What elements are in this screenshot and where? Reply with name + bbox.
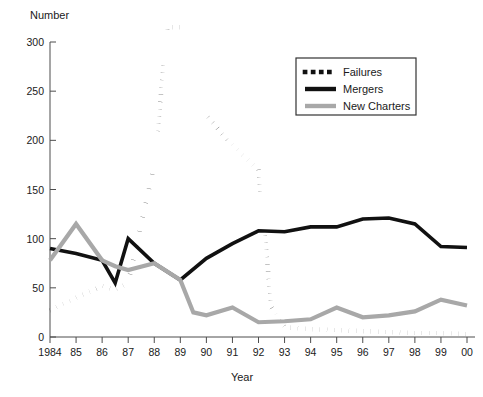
x-tick-label: 87 — [122, 346, 134, 358]
x-tick-label: 94 — [305, 346, 317, 358]
legend-label: New Charters — [343, 100, 411, 112]
x-tick-label: 92 — [253, 346, 265, 358]
y-tick-label: 250 — [26, 85, 44, 97]
x-tick-label: 1984 — [38, 346, 62, 358]
y-tick-label: 200 — [26, 134, 44, 146]
x-tick-label: 89 — [174, 346, 186, 358]
x-tick-label: 00 — [461, 346, 473, 358]
legend-label: Mergers — [343, 83, 384, 95]
y-tick-label: 50 — [32, 282, 44, 294]
x-tick-label: 97 — [383, 346, 395, 358]
legend-label: Failures — [343, 66, 383, 78]
y-tick-label: 0 — [38, 331, 44, 343]
x-tick-label: 91 — [227, 346, 239, 358]
series-line-new-charters — [50, 224, 467, 322]
x-axis-ticks: 198485868788899091929394959697989900 — [38, 337, 473, 358]
line-chart: Number 050100150200250300 19848586878889… — [0, 0, 483, 397]
y-tick-label: 150 — [26, 184, 44, 196]
x-tick-label: 90 — [201, 346, 213, 358]
x-tick-label: 98 — [409, 346, 421, 358]
x-tick-label: 93 — [279, 346, 291, 358]
x-axis-title: Year — [231, 371, 254, 383]
x-tick-label: 88 — [148, 346, 160, 358]
y-tick-label: 100 — [26, 233, 44, 245]
x-tick-label: 86 — [96, 346, 108, 358]
x-tick-label: 99 — [435, 346, 447, 358]
x-tick-label: 85 — [70, 346, 82, 358]
chart-legend: FailuresMergersNew Charters — [296, 58, 416, 115]
y-axis-ticks: 050100150200250300 — [26, 36, 56, 343]
y-tick-label: 300 — [26, 36, 44, 48]
x-tick-label: 96 — [357, 346, 369, 358]
y-axis-title: Number — [30, 9, 69, 21]
series-line-mergers — [50, 218, 467, 283]
x-tick-label: 95 — [331, 346, 343, 358]
